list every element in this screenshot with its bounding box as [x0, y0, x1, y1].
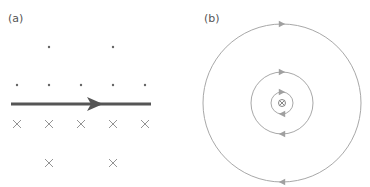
field-in-crosses: [13, 120, 149, 167]
field-dot: [112, 46, 114, 48]
field-dot: [144, 84, 146, 86]
field-cross: [45, 120, 53, 128]
arrow-right-icon: [279, 21, 285, 27]
arrow-left-icon: [279, 179, 285, 185]
field-cross: [109, 159, 117, 167]
panel-b-label: (b): [204, 12, 220, 25]
field-dot: [112, 84, 114, 86]
current-wire: [11, 97, 151, 111]
arrow-left-icon: [279, 111, 285, 117]
current-into-page-icon: [279, 100, 286, 107]
field-dot: [80, 84, 82, 86]
arrow-right-icon: [279, 89, 285, 95]
field-cross: [77, 120, 85, 128]
field-dot: [16, 84, 18, 86]
field-cross: [141, 120, 149, 128]
panel-a-label: (a): [8, 12, 23, 25]
field-dot: [48, 84, 50, 86]
field-cross: [109, 120, 117, 128]
field-cross: [13, 120, 21, 128]
field-out-dots: [16, 46, 146, 86]
field-cross: [45, 159, 53, 167]
arrow-left-icon: [279, 131, 285, 137]
panel-a: (a): [8, 12, 151, 167]
field-dot: [48, 46, 50, 48]
arrow-right-icon: [279, 69, 285, 75]
panel-b: (b): [203, 12, 361, 185]
diagram-canvas: (a) (b): [0, 0, 370, 187]
